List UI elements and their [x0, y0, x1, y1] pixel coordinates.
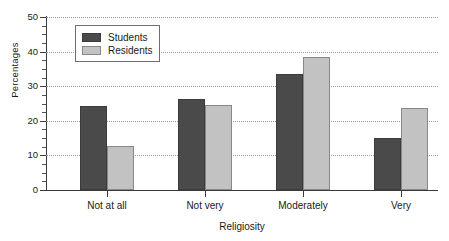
- y-tick-label-10: 10: [0, 150, 38, 160]
- y-tick-label-50: 50: [0, 12, 38, 22]
- bar-residents-not-at-all: [107, 146, 134, 190]
- x-tick-not-at-all: [107, 190, 108, 197]
- x-tick-not-very: [205, 190, 206, 197]
- x-tick-moderately: [303, 190, 304, 197]
- bar-residents-moderately: [303, 57, 330, 190]
- y-tick-label-0: 0: [0, 185, 38, 195]
- y-tick-label-20: 20: [0, 116, 38, 126]
- legend-item-students: Students: [82, 31, 152, 43]
- legend: Students Residents: [75, 25, 160, 62]
- bar-residents-very: [401, 108, 428, 190]
- bar-residents-not-very: [205, 105, 232, 190]
- bar-chart: Percentages 01020304050 Not at allNot ve…: [0, 0, 449, 241]
- x-tick-label-very: Very: [356, 200, 446, 212]
- x-tick-very: [401, 190, 402, 197]
- legend-label-residents: Residents: [108, 45, 152, 56]
- bar-students-very: [374, 138, 401, 190]
- legend-swatch-students-icon: [82, 33, 101, 42]
- y-tick-label-30: 30: [0, 81, 38, 91]
- x-tick-label-not-at-all: Not at all: [62, 200, 152, 212]
- legend-label-students: Students: [108, 32, 147, 43]
- x-tick-label-not-very: Not very: [160, 200, 250, 212]
- legend-swatch-residents-icon: [82, 46, 101, 55]
- bar-students-not-at-all: [80, 106, 107, 190]
- bar-students-moderately: [276, 74, 303, 190]
- x-axis-title: Religiosity: [46, 221, 438, 233]
- legend-item-residents: Residents: [82, 44, 152, 56]
- gridline-30: [46, 86, 438, 87]
- x-axis-line: [46, 190, 438, 191]
- gridline-50: [46, 17, 438, 18]
- bar-students-not-very: [178, 99, 205, 190]
- y-tick-label-40: 40: [0, 47, 38, 57]
- y-axis-title: Percentages: [7, 25, 23, 115]
- x-tick-label-moderately: Moderately: [258, 200, 348, 212]
